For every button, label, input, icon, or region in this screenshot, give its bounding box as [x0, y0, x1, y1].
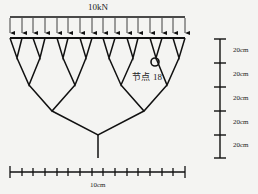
- tree-branches: [10, 38, 185, 158]
- vertical-scale-label-3: 20cm: [233, 94, 249, 102]
- vertical-scale-label-1: 20cm: [233, 46, 249, 54]
- vertical-scale-label-2: 20cm: [233, 70, 249, 78]
- load-arrows: [10, 18, 185, 33]
- node-label-prefix: 节点: [132, 72, 150, 82]
- node-label: 节点 18: [132, 70, 162, 83]
- load-label: 10kN: [88, 2, 108, 12]
- horizontal-scale-label: 10cm: [90, 181, 106, 189]
- horizontal-scale: [10, 166, 185, 178]
- node-label-number: 18: [153, 72, 162, 82]
- vertical-scale-label-4: 20cm: [233, 118, 249, 126]
- vertical-scale-label-5: 20cm: [233, 141, 249, 149]
- branching-structure-diagram: [0, 0, 258, 194]
- vertical-scale: [214, 39, 226, 158]
